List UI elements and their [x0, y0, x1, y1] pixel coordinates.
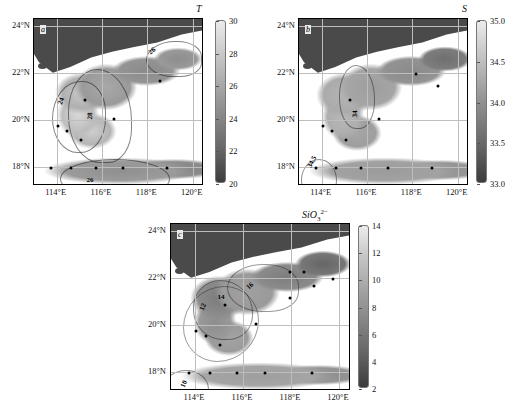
colorbar-tick-mark	[477, 103, 480, 104]
panel-a-ytick: 20°N	[0, 114, 30, 124]
colorbar-tick-mark	[216, 119, 219, 120]
station-dot	[332, 278, 335, 281]
colorbar-label: 34.5	[490, 57, 505, 67]
station-dot	[50, 167, 53, 170]
station-dot	[387, 167, 390, 170]
panel-b-gridline-20n	[299, 120, 467, 121]
colorbar-label: 35.0	[490, 16, 505, 26]
panel-c-island	[175, 268, 184, 274]
contour-label: 26	[87, 176, 94, 184]
station-dot	[66, 130, 69, 133]
panel-c-xtick: 114°E	[183, 392, 204, 402]
colorbar-tick-mark	[477, 184, 480, 185]
station-dot	[80, 139, 83, 142]
contour-label: 14	[218, 293, 225, 301]
panel-a-gridline-118e	[147, 19, 148, 184]
colorbar-tick-mark	[216, 86, 219, 87]
panel-a-gridline-120e	[193, 19, 194, 184]
station-dot	[122, 167, 125, 170]
panel-c-xtick: 116°E	[231, 392, 252, 402]
station-dot	[236, 372, 239, 375]
panel-b-colorbar: 35.0 34.5 34.0 33.5 33.0	[476, 20, 487, 183]
station-dot	[166, 167, 169, 170]
panel-c-title-superscript: 2−	[321, 208, 328, 216]
panel-a-island	[38, 63, 47, 69]
colorbar-label: 12	[372, 248, 381, 258]
panel-b-map: b 34 34.5	[298, 18, 468, 185]
station-dot	[159, 80, 162, 83]
panel-a-gridline-20n	[34, 120, 202, 121]
panel-a-ytick: 22°N	[0, 67, 30, 77]
panel-c-colorbar: 14 12 10 8 6 4 2	[358, 225, 369, 388]
panel-b-gridline-22n	[299, 73, 467, 74]
station-dot	[313, 285, 316, 288]
colorbar-tick-mark	[477, 62, 480, 63]
colorbar-tick-mark	[216, 54, 219, 55]
colorbar-label: 33.5	[490, 138, 505, 148]
station-dot	[322, 125, 325, 128]
panel-c-ytick: 22°N	[130, 272, 166, 282]
panel-a-ytick: 18°N	[0, 161, 30, 171]
station-dot	[209, 372, 212, 375]
colorbar-tick-mark	[359, 308, 362, 309]
panel-a-xtick: 116°E	[90, 187, 111, 197]
panel-b-title: S	[462, 3, 467, 14]
station-dot	[95, 167, 98, 170]
panel-a-label: a	[40, 25, 46, 34]
panel-b-ytick: 22°N	[265, 67, 295, 77]
contour-label: 34	[351, 110, 359, 117]
panel-a-gridline-18n	[34, 167, 202, 168]
panel-b-gridline-116e	[367, 19, 368, 184]
panel-b-gridline-24n	[299, 26, 467, 27]
panel-c-label: c	[177, 230, 183, 239]
panel-b-gridline-120e	[458, 19, 459, 184]
panel-c-ytick: 20°N	[130, 319, 166, 329]
station-dot	[188, 372, 191, 375]
colorbar-label: 2	[372, 384, 376, 394]
panel-b-ytick: 24°N	[265, 20, 295, 30]
colorbar-tick-mark	[216, 151, 219, 152]
station-dot	[289, 297, 292, 300]
station-dot	[331, 130, 334, 133]
panel-c-gridline-116e	[243, 224, 244, 389]
station-dot	[311, 372, 314, 375]
panel-a-gridline-116e	[102, 19, 103, 184]
colorbar-tick-mark	[359, 335, 362, 336]
panel-a-gridline-22n	[34, 73, 202, 74]
colorbar-label: 22	[229, 146, 238, 156]
colorbar-label: 24	[229, 114, 238, 124]
colorbar-label: 20	[229, 179, 238, 189]
panel-b-xtick: 118°E	[401, 187, 422, 197]
panel-c-gridline-120e	[339, 224, 340, 389]
colorbar-label: 4	[372, 357, 376, 367]
contour-label: 28	[86, 112, 94, 119]
panel-a-xtick: 114°E	[45, 187, 66, 197]
station-dot	[315, 167, 318, 170]
panel-a-xtick: 120°E	[181, 187, 202, 197]
station-dot	[335, 167, 338, 170]
panel-b-label: b	[305, 25, 311, 34]
colorbar-label: 14	[372, 221, 381, 231]
panel-a-ytick: 24°N	[0, 20, 30, 30]
panel-c-gridline-118e	[291, 224, 292, 389]
station-dot	[289, 271, 292, 274]
station-dot	[195, 330, 198, 333]
station-dot	[360, 167, 363, 170]
panel-a-map: a 26 24 28 26	[33, 18, 203, 185]
panel-c-xtick: 120°E	[327, 392, 348, 402]
station-dot	[264, 372, 267, 375]
station-dot	[303, 271, 306, 274]
panel-b-ytick: 20°N	[265, 114, 295, 124]
station-dot	[113, 118, 116, 121]
panel-a-xtick: 118°E	[136, 187, 157, 197]
colorbar-tick-mark	[216, 184, 219, 185]
station-dot	[431, 167, 434, 170]
colorbar-tick-mark	[359, 226, 362, 227]
colorbar-tick-mark	[359, 362, 362, 363]
panel-c-gridline-18n	[171, 372, 349, 373]
panel-temperature: T a 26 24	[0, 0, 265, 200]
panel-c-gridline-22n	[171, 278, 349, 279]
colorbar-tick-mark	[477, 143, 480, 144]
panel-b-xtick: 114°E	[310, 187, 331, 197]
panel-a-gridline-24n	[34, 26, 202, 27]
